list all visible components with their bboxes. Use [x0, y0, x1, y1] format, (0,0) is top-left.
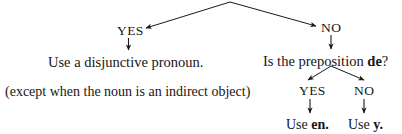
- edge-root-to-no: [230, 2, 316, 26]
- branch-label-no-bottom: NO: [354, 84, 374, 98]
- outcome-disjunctive-pronoun: Use a disjunctive pronoun.: [48, 55, 203, 70]
- branch-label-yes-top: YES: [117, 24, 144, 38]
- question-prefix-text: Is the preposition: [263, 53, 367, 69]
- period-en: .: [325, 117, 329, 132]
- question-preposition-de: Is the preposition de?: [263, 54, 388, 69]
- keyword-de: de: [367, 53, 382, 69]
- period-y: .: [380, 117, 384, 132]
- edge-root-to-yes: [146, 2, 230, 28]
- keyword-en: en: [311, 117, 325, 132]
- branch-label-no-top: NO: [321, 21, 341, 35]
- question-suffix-text: ?: [382, 53, 388, 69]
- note-indirect-object-exception: (except when the noun is an indirect obj…: [5, 85, 250, 99]
- outcome-use-y: Use y.: [348, 118, 383, 132]
- outcome-use-en: Use en.: [286, 118, 329, 132]
- decision-tree-diagram: YES NO Use a disjunctive pronoun. (excep…: [0, 0, 402, 134]
- use-prefix-y: Use: [348, 117, 373, 132]
- use-prefix-en: Use: [286, 117, 311, 132]
- branch-label-yes-bottom: YES: [299, 84, 326, 98]
